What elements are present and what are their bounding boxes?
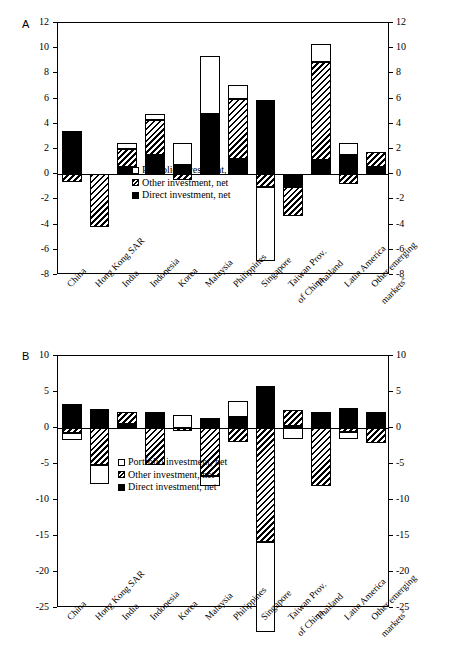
- y-axis-label-right: 4: [396, 117, 430, 128]
- bar-group[interactable]: [256, 356, 276, 606]
- y-axis-tick-right: [389, 499, 393, 500]
- bar-segment-direct[interactable]: [62, 133, 82, 175]
- bar-segment-other[interactable]: [366, 152, 386, 167]
- bar-segment-other[interactable]: [311, 62, 331, 160]
- bar-segment-portfolio[interactable]: [62, 433, 82, 439]
- bar-segment-other[interactable]: [145, 120, 165, 155]
- bar-group[interactable]: [311, 356, 331, 606]
- bar-segment-direct[interactable]: [366, 412, 386, 428]
- bar-segment-direct[interactable]: [117, 424, 137, 428]
- bar-group[interactable]: [228, 356, 248, 606]
- bar-group[interactable]: [145, 23, 165, 273]
- bar-group[interactable]: [228, 23, 248, 273]
- y-axis-tick-left: [53, 274, 57, 275]
- y-axis-tick-left: [53, 571, 57, 572]
- bar-segment-other[interactable]: [283, 187, 303, 216]
- bar-group[interactable]: [311, 23, 331, 273]
- legend-swatch-other-icon: [132, 179, 139, 186]
- chart-frame: [57, 22, 389, 274]
- y-axis-label-left: -25: [15, 601, 49, 612]
- bar-group[interactable]: [339, 23, 359, 273]
- bar-segment-portfolio[interactable]: [228, 401, 248, 418]
- bar-segment-direct[interactable]: [366, 167, 386, 175]
- y-axis-label-left: -6: [15, 243, 49, 254]
- bar-group[interactable]: [256, 23, 276, 273]
- bar-segment-portfolio[interactable]: [90, 465, 110, 484]
- bar-segment-direct[interactable]: [62, 404, 82, 428]
- y-axis-tick-right: [389, 535, 393, 536]
- y-axis-label-right: 2: [396, 142, 430, 153]
- y-axis-tick-left: [53, 72, 57, 73]
- bar-segment-other[interactable]: [366, 428, 386, 443]
- bar-group[interactable]: [62, 356, 82, 606]
- bar-segment-portfolio[interactable]: [173, 143, 193, 166]
- bar-group[interactable]: [366, 23, 386, 273]
- bar-segment-portfolio[interactable]: [256, 187, 276, 261]
- legend-label: Portfolio investment, net: [142, 164, 241, 177]
- bar-segment-direct[interactable]: [256, 386, 276, 428]
- bar-segment-direct[interactable]: [145, 412, 165, 428]
- bar-segment-other[interactable]: [117, 412, 137, 424]
- bar-segment-portfolio[interactable]: [339, 432, 359, 439]
- bar-segment-other[interactable]: [228, 428, 248, 442]
- legend-swatch-portfolio-icon: [132, 167, 139, 174]
- y-axis-label-right: -10: [396, 493, 430, 504]
- panel-a: A -8-8-6-6-4-4-2-2002244668810101212Port…: [0, 0, 450, 336]
- bar-segment-other[interactable]: [256, 174, 276, 187]
- y-axis-tick-left: [53, 22, 57, 23]
- y-axis-label-left: 6: [15, 92, 49, 103]
- bar-group[interactable]: [366, 356, 386, 606]
- legend-label: Direct investment, net: [142, 189, 231, 202]
- bar-segment-direct[interactable]: [311, 412, 331, 428]
- y-axis-label-left: 2: [15, 142, 49, 153]
- bar-segment-portfolio[interactable]: [283, 428, 303, 439]
- bar-segment-portfolio[interactable]: [311, 44, 331, 62]
- bar-group[interactable]: [200, 23, 220, 273]
- y-axis-label-left: 12: [15, 16, 49, 27]
- bar-segment-direct[interactable]: [283, 174, 303, 187]
- bar-segment-portfolio[interactable]: [173, 415, 193, 428]
- bar-segment-other[interactable]: [62, 174, 82, 182]
- bar-segment-direct[interactable]: [339, 155, 359, 174]
- bar-segment-portfolio[interactable]: [200, 56, 220, 114]
- bar-segment-direct[interactable]: [200, 418, 220, 428]
- bar-group[interactable]: [62, 23, 82, 273]
- y-axis-label-right: 5: [396, 385, 430, 396]
- bar-segment-direct[interactable]: [339, 408, 359, 428]
- bar-group[interactable]: [339, 356, 359, 606]
- bar-segment-other[interactable]: [90, 174, 110, 227]
- legend-label: Other investment, net: [142, 177, 228, 190]
- bar-segment-portfolio[interactable]: [228, 85, 248, 99]
- bar-segment-portfolio[interactable]: [145, 114, 165, 120]
- legend-label: Portfolio investment, net: [128, 456, 227, 469]
- bar-segment-portfolio[interactable]: [62, 131, 82, 133]
- bar-segment-portfolio[interactable]: [117, 143, 137, 149]
- bar-group[interactable]: [117, 23, 137, 273]
- bar-segment-other[interactable]: [228, 99, 248, 159]
- y-axis-label-right: 6: [396, 92, 430, 103]
- bar-segment-other[interactable]: [283, 410, 303, 426]
- legend-swatch-portfolio-icon: [118, 459, 125, 466]
- bar-segment-direct[interactable]: [228, 417, 248, 428]
- y-axis-label-right: 12: [396, 16, 430, 27]
- bar-segment-direct[interactable]: [90, 409, 110, 428]
- bar-group[interactable]: [283, 23, 303, 273]
- legend-swatch-other-icon: [118, 471, 125, 478]
- y-axis-label-left: -10: [15, 493, 49, 504]
- bar-group[interactable]: [90, 23, 110, 273]
- bar-segment-other[interactable]: [311, 428, 331, 486]
- bar-segment-direct[interactable]: [256, 100, 276, 174]
- bar-group[interactable]: [90, 356, 110, 606]
- y-axis-label-left: -4: [15, 218, 49, 229]
- bar-segment-portfolio[interactable]: [339, 143, 359, 156]
- bar-segment-other[interactable]: [256, 428, 276, 542]
- bar-group[interactable]: [173, 23, 193, 273]
- bar-group[interactable]: [283, 356, 303, 606]
- bar-segment-other[interactable]: [173, 428, 193, 431]
- y-axis-label-left: -15: [15, 529, 49, 540]
- y-axis-label-right: 0: [396, 167, 430, 178]
- bar-segment-direct[interactable]: [311, 160, 331, 174]
- bar-segment-other[interactable]: [90, 428, 110, 465]
- y-axis-tick-right: [389, 123, 393, 124]
- bar-segment-other[interactable]: [339, 174, 359, 184]
